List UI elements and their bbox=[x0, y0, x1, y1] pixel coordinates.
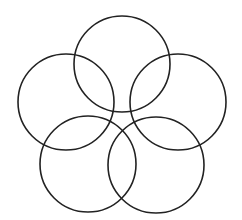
circle-top bbox=[74, 16, 170, 112]
circle-right bbox=[130, 54, 226, 150]
circle-left bbox=[18, 54, 114, 150]
circle-bottom-right bbox=[108, 117, 204, 213]
five-circles-diagram bbox=[0, 0, 242, 220]
